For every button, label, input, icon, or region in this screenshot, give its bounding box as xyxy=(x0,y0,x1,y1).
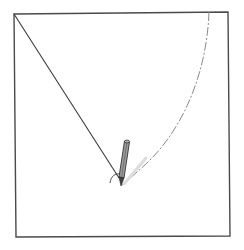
square-outline xyxy=(14,12,230,237)
string-line xyxy=(14,14,119,178)
compass-arc-diagram xyxy=(0,0,244,250)
traced-arc xyxy=(122,12,209,185)
diagram-canvas xyxy=(0,0,244,250)
pencil-shadow xyxy=(124,158,146,184)
